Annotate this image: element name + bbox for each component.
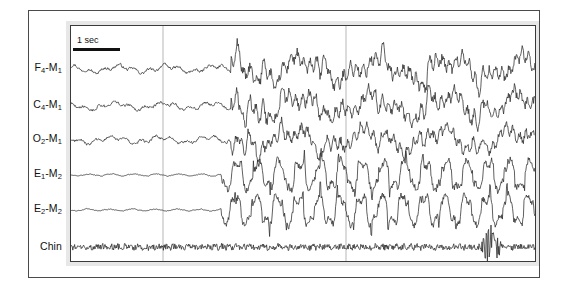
scalebar-line <box>73 48 120 51</box>
waveform-traces <box>71 26 535 261</box>
trace-chin <box>71 225 535 261</box>
channel-label-e2-m2: E2-M2 <box>34 202 62 216</box>
trace-o2-m1 <box>71 117 535 167</box>
channel-label-e1-m2: E1-M2 <box>34 167 62 181</box>
channel-label-c4-m1: C4-M1 <box>33 98 62 112</box>
scalebar-label: 1 sec <box>77 35 99 45</box>
trace-c4-m1 <box>71 83 535 131</box>
trace-e2-m2 <box>71 182 535 237</box>
psg-figure: 1 sec F4-M1C4-M1O2-M1E1-M2E2-M2Chin <box>0 0 567 289</box>
waveform-plot-area: 1 sec <box>70 25 536 262</box>
channel-label-column: F4-M1C4-M1O2-M1E1-M2E2-M2Chin <box>0 0 70 289</box>
channel-label-o2-m1: O2-M1 <box>33 132 62 146</box>
trace-f4-m1 <box>71 38 535 97</box>
channel-label-f4-m1: F4-M1 <box>34 61 62 75</box>
channel-label-chin: Chin <box>40 240 62 252</box>
